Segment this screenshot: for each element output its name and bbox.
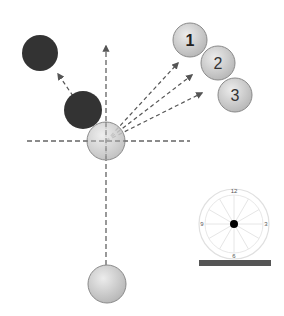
numbered-ball-3: 3 xyxy=(218,78,252,112)
dark-ball-far xyxy=(22,35,58,71)
aim-clock-dial: 12 3 6 9 xyxy=(199,188,269,259)
numbered-ball-1: 1 xyxy=(173,23,207,57)
clock-label-9: 9 xyxy=(200,221,204,227)
ball-1-label: 1 xyxy=(186,32,195,49)
clock-label-3: 3 xyxy=(264,221,268,227)
ball-2-label: 2 xyxy=(214,55,223,72)
billiards-diagram: 1 2 3 12 3 6 9 xyxy=(0,0,284,316)
clock-label-12: 12 xyxy=(231,188,238,194)
cushion-bar xyxy=(199,260,271,266)
clock-center-dot xyxy=(230,220,238,228)
ball-3-label: 3 xyxy=(231,87,240,104)
clock-label-6: 6 xyxy=(232,253,236,259)
numbered-ball-2: 2 xyxy=(201,46,235,80)
dark-ball-path-arrow xyxy=(58,74,73,96)
cue-ball-start xyxy=(88,265,126,303)
dark-ball-near xyxy=(64,91,102,129)
